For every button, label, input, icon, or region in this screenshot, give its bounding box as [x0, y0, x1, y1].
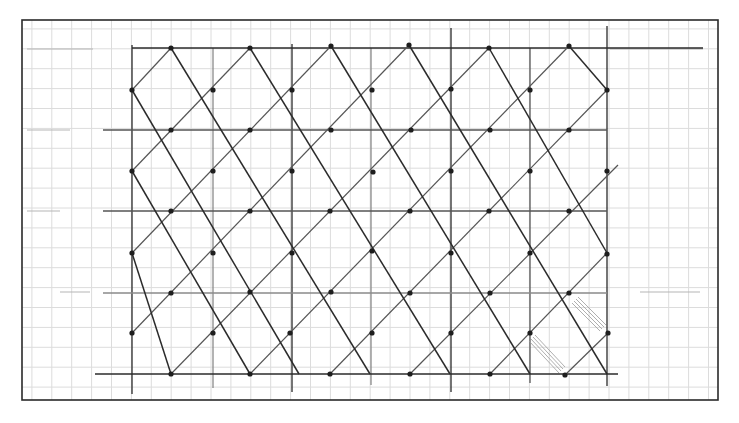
lattice-node-dot	[247, 127, 252, 132]
lattice-node-dot	[129, 250, 134, 255]
lattice-node-dot	[566, 127, 571, 132]
lattice-node-dot	[327, 208, 332, 213]
lattice-node-dot	[527, 87, 532, 92]
lattice-node-dot	[486, 45, 491, 50]
lattice-node-dot	[129, 168, 134, 173]
lattice-node-dot	[486, 208, 491, 213]
lattice-node-dot	[527, 330, 532, 335]
lattice-node-dot	[604, 168, 609, 173]
lattice-node-dot	[327, 371, 332, 376]
lattice-node-dot	[168, 45, 173, 50]
lattice-node-dot	[487, 290, 492, 295]
lattice-node-dot	[448, 250, 453, 255]
lattice-node-dot	[566, 290, 571, 295]
lattice-node-dot	[129, 87, 134, 92]
lattice-node-dot	[168, 290, 173, 295]
lattice-node-dot	[168, 208, 173, 213]
lattice-node-dot	[407, 208, 412, 213]
graph-paper-sketch	[0, 0, 739, 423]
lattice-node-dot	[328, 289, 333, 294]
lattice-node-dot	[408, 127, 413, 132]
lattice-node-dot	[328, 127, 333, 132]
lattice-node-dot	[287, 330, 292, 335]
diamond-lattice-drawing	[0, 0, 739, 423]
lattice-node-dot	[407, 371, 412, 376]
lattice-node-dot	[562, 372, 567, 377]
lattice-node-dot	[247, 45, 252, 50]
lattice-node-dot	[328, 43, 333, 48]
lattice-node-dot	[210, 168, 215, 173]
lattice-node-dot	[289, 168, 294, 173]
lattice-node-dot	[566, 43, 571, 48]
lattice-node-dot	[247, 371, 252, 376]
lattice-node-dot	[247, 208, 252, 213]
lattice-node-dot	[448, 330, 453, 335]
lattice-node-dot	[605, 330, 610, 335]
lattice-node-dot	[604, 87, 609, 92]
lattice-node-dot	[604, 251, 609, 256]
lattice-node-dot	[369, 330, 374, 335]
lattice-node-dot	[487, 371, 492, 376]
lattice-node-dot	[247, 289, 252, 294]
lattice-node-dot	[527, 250, 532, 255]
lattice-node-dot	[448, 86, 453, 91]
lattice-node-dot	[210, 330, 215, 335]
lattice-node-dot	[210, 87, 215, 92]
lattice-node-dot	[210, 250, 215, 255]
lattice-node-dot	[369, 87, 374, 92]
lattice-node-dot	[566, 208, 571, 213]
lattice-node-dot	[448, 168, 453, 173]
lattice-node-dot	[370, 169, 375, 174]
lattice-node-dot	[369, 248, 374, 253]
lattice-node-dot	[527, 168, 532, 173]
lattice-node-dot	[487, 127, 492, 132]
lattice-node-dot	[406, 42, 411, 47]
lattice-node-dot	[407, 290, 412, 295]
lattice-node-dot	[289, 87, 294, 92]
lattice-node-dot	[168, 127, 173, 132]
lattice-node-dot	[289, 250, 294, 255]
lattice-node-dot	[129, 330, 134, 335]
lattice-node-dot	[168, 371, 173, 376]
